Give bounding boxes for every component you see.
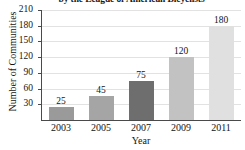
bar-value-label: 45 bbox=[96, 85, 106, 95]
bar: 45 bbox=[89, 96, 114, 120]
gridline bbox=[41, 10, 241, 11]
x-tick-label: 2009 bbox=[171, 122, 191, 133]
x-axis-line bbox=[41, 120, 241, 121]
y-axis-title: Number of Communities bbox=[7, 2, 18, 122]
y-axis-line bbox=[41, 10, 42, 120]
x-axis-title: Year bbox=[41, 135, 241, 146]
bar-value-label: 180 bbox=[214, 15, 228, 25]
bar-value-label: 75 bbox=[136, 70, 146, 80]
bar: 120 bbox=[169, 57, 194, 120]
bar-value-label: 25 bbox=[56, 96, 66, 106]
y-tick-label: 60 bbox=[24, 84, 34, 94]
chart-title: by the League of American Bicyclists bbox=[18, 0, 245, 4]
bar-value-label: 120 bbox=[174, 46, 188, 56]
bar: 180 bbox=[209, 26, 234, 120]
bar: 75 bbox=[129, 81, 154, 120]
bar-chart: by the League of American Bicyclists Num… bbox=[0, 0, 245, 150]
y-tick-label: 90 bbox=[24, 68, 34, 78]
plot-area: 306090120150180210 254575120180 20032005… bbox=[41, 10, 241, 120]
y-tick-label: 180 bbox=[19, 21, 33, 31]
x-tick-label: 2011 bbox=[211, 122, 231, 133]
y-tick-label: 30 bbox=[24, 100, 34, 110]
y-tick-label: 210 bbox=[19, 5, 33, 15]
y-tick-label: 150 bbox=[19, 37, 33, 47]
x-tick-label: 2003 bbox=[51, 122, 71, 133]
x-tick-label: 2007 bbox=[131, 122, 151, 133]
y-tick-label: 120 bbox=[19, 52, 33, 62]
bar: 25 bbox=[49, 107, 74, 120]
x-tick-label: 2005 bbox=[91, 122, 111, 133]
